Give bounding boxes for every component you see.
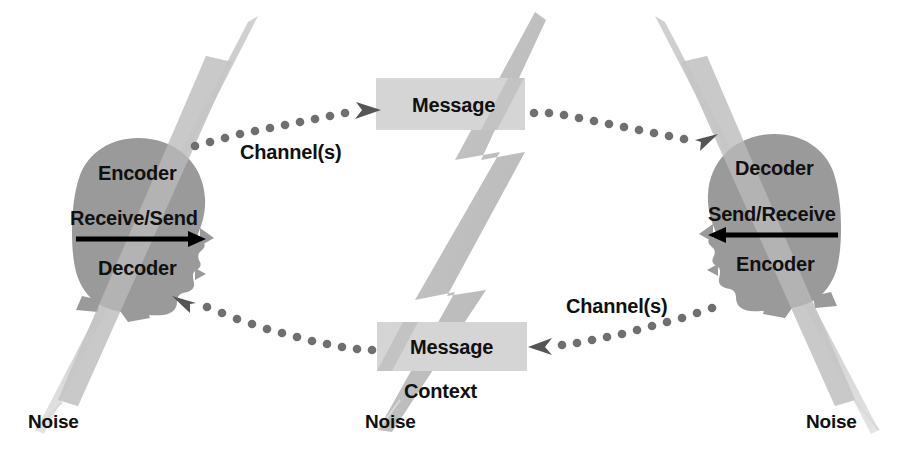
left-person-middle-label: Receive/Send (70, 208, 198, 228)
context-label: Context (404, 381, 477, 401)
left-person-bottom-label: Decoder (98, 258, 177, 278)
left-person-top-label: Encoder (98, 163, 177, 183)
noise-label-center: Noise (365, 412, 416, 431)
noise-label-left: Noise (28, 412, 79, 431)
channel-label-upper: Channel(s) (240, 142, 341, 162)
right-person-middle-label: Send/Receive (708, 204, 836, 224)
right-person-bottom-label: Encoder (736, 254, 815, 274)
channel-dots-top-right (530, 109, 718, 151)
message-label-top: Message (412, 95, 495, 115)
noise-label-right: Noise (806, 412, 857, 431)
communication-model-diagram: Encoder Receive/Send Decoder Decoder Sen… (0, 0, 913, 461)
channel-label-lower: Channel(s) (566, 296, 667, 316)
message-label-bottom: Message (410, 337, 493, 357)
right-person-top-label: Decoder (735, 158, 814, 178)
channel-dots-bottom-left (172, 296, 376, 354)
